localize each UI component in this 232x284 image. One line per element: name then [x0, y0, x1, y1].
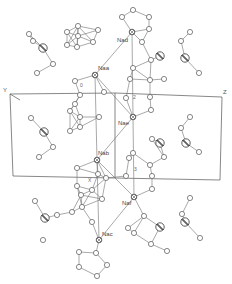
light-atom — [89, 219, 94, 224]
light-atom — [149, 136, 154, 141]
light-atom — [187, 114, 192, 119]
light-atom — [75, 23, 80, 28]
bond — [133, 153, 150, 165]
bond — [133, 68, 150, 80]
bond — [134, 216, 144, 233]
light-atom — [74, 183, 79, 188]
light-atom — [32, 198, 37, 203]
heavy-atom — [181, 218, 189, 226]
light-atom — [197, 235, 202, 240]
light-atom — [67, 108, 72, 113]
bond — [134, 233, 151, 244]
bond — [128, 216, 144, 228]
atom-label-naf: Naf — [122, 200, 132, 206]
light-atom — [131, 230, 136, 235]
small-label: 2 — [133, 94, 136, 100]
na-column — [133, 117, 134, 197]
light-atom — [93, 250, 98, 255]
bond — [130, 79, 150, 80]
light-atom — [147, 77, 152, 82]
bond — [82, 199, 102, 207]
light-atom — [187, 195, 192, 200]
light-atom — [72, 78, 77, 83]
light-atom — [76, 264, 81, 269]
heavy-atom — [39, 44, 47, 52]
light-atom — [125, 225, 130, 230]
light-atom — [146, 14, 151, 19]
light-atom — [40, 237, 45, 242]
light-atom — [95, 171, 100, 176]
light-atom — [90, 39, 95, 44]
light-atom — [127, 76, 132, 81]
light-atom — [36, 154, 41, 159]
light-atom — [78, 192, 83, 197]
light-atom — [196, 149, 201, 154]
light-atom — [147, 94, 152, 99]
heavy-atom — [156, 52, 164, 60]
axis-label-z: Z — [223, 89, 227, 95]
light-atom — [77, 124, 82, 129]
atom-labels: NadNaaNaeNabNafNac0X23 — [80, 37, 137, 237]
bond — [134, 197, 144, 216]
atoms — [26, 7, 202, 278]
light-atom — [178, 125, 183, 130]
heavy-atom — [181, 54, 189, 62]
light-atom — [149, 186, 154, 191]
atom-label-nab: Nab — [98, 150, 110, 156]
axis-label-y: Y — [3, 87, 7, 93]
light-atom — [161, 154, 166, 159]
heavy-atom — [40, 128, 48, 136]
light-atom — [146, 26, 151, 31]
atom-label-nac: Nac — [102, 231, 113, 237]
na-column — [132, 32, 133, 117]
bond — [81, 195, 102, 199]
bonds — [29, 10, 200, 276]
light-atom — [126, 155, 131, 160]
light-atom — [50, 61, 55, 66]
light-atom — [74, 44, 79, 49]
light-atom — [34, 70, 39, 75]
light-atom — [179, 211, 184, 216]
light-atom — [178, 38, 183, 43]
bond — [77, 160, 97, 168]
light-atom — [196, 70, 201, 75]
sodium-atom-naf — [131, 194, 137, 200]
light-atom — [76, 249, 81, 254]
bond — [150, 60, 151, 80]
light-atom — [187, 29, 192, 34]
light-atom — [123, 95, 128, 100]
atom-label-naa: Naa — [98, 65, 110, 71]
sodium-atom-nab — [94, 157, 100, 163]
light-atom — [99, 196, 104, 201]
heavy-atom — [156, 223, 164, 231]
unit-cell — [10, 93, 222, 180]
bond — [133, 60, 151, 68]
light-atom — [64, 29, 69, 34]
light-atom — [139, 39, 144, 44]
light-atom — [148, 107, 153, 112]
small-label: X — [88, 177, 92, 183]
light-atom — [130, 65, 135, 70]
small-label: 3 — [134, 166, 137, 172]
light-atom — [130, 150, 135, 155]
light-atom — [161, 76, 166, 81]
light-atom — [26, 31, 31, 36]
light-atom — [72, 101, 77, 106]
bond — [142, 42, 151, 60]
light-atom — [164, 248, 169, 253]
heavy-atom — [156, 139, 164, 147]
bond — [79, 267, 97, 276]
light-atom — [74, 165, 79, 170]
light-atom — [94, 273, 99, 278]
light-atom — [148, 241, 153, 246]
light-atom — [77, 114, 82, 119]
light-atom — [104, 262, 109, 267]
light-atom — [79, 204, 84, 209]
light-atom — [30, 38, 35, 43]
light-atom — [69, 209, 74, 214]
heavy-atom — [182, 139, 190, 147]
light-atom — [54, 212, 59, 217]
atom-label-nae: Nae — [118, 120, 130, 126]
light-atom — [147, 162, 152, 167]
light-atom — [28, 115, 33, 120]
